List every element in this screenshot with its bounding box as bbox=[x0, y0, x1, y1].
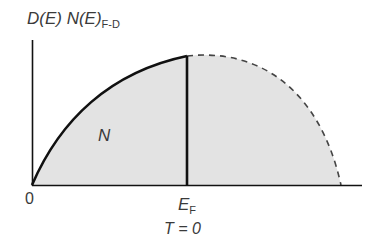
temperature-symbol: T = 0 bbox=[164, 220, 201, 237]
fermi-energy-label: EF bbox=[178, 195, 196, 215]
temperature-label: T = 0 bbox=[164, 220, 201, 238]
y-axis-label: D(E) N(E)F-D bbox=[27, 9, 120, 29]
region-label-n: N bbox=[98, 126, 110, 146]
origin-label: 0 bbox=[25, 190, 34, 208]
